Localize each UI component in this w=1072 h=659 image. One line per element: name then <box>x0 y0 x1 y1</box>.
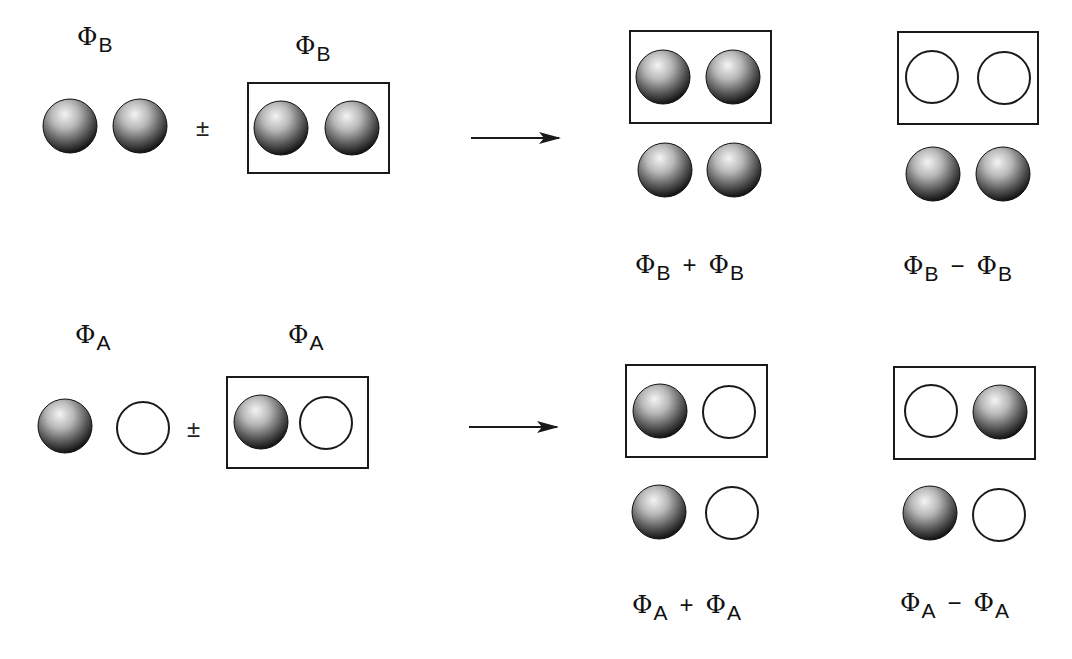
open-orbital <box>300 397 352 449</box>
orbital-combination-diagram: ΦB ΦB ± ΦB+ΦB ΦB−ΦB ΦA ΦA ± ΦA+ΦA ΦA−ΦA <box>0 0 1072 659</box>
subscript: B <box>998 262 1012 285</box>
subscript: A <box>727 601 741 624</box>
subscript: B <box>657 261 671 284</box>
row-a <box>38 365 1035 541</box>
filled-orbital <box>325 101 379 155</box>
phi-symbol: Φ <box>295 31 316 60</box>
open-orbital <box>117 402 169 454</box>
label-phi-b-left: ΦB <box>77 24 113 49</box>
phi-a-left-orbitals <box>38 399 169 454</box>
phi-a-boxed-orbitals <box>227 377 368 468</box>
label-phi-a-right: ΦA <box>288 322 324 347</box>
filled-orbital <box>254 101 308 155</box>
filled-orbital <box>638 143 692 197</box>
result-phi-a-minus <box>894 367 1035 541</box>
result-phi-b-minus <box>898 32 1038 201</box>
phi-symbol: Φ <box>288 320 309 349</box>
open-orbital <box>906 51 958 103</box>
operator: + <box>680 591 694 618</box>
filled-orbital <box>976 147 1030 201</box>
phi-b-left-orbitals <box>43 99 167 153</box>
open-orbital <box>973 489 1025 541</box>
subscript: A <box>310 331 324 354</box>
subscript: B <box>99 33 113 56</box>
filled-orbital <box>973 385 1027 439</box>
phi-symbol: Φ <box>706 590 727 619</box>
plus-minus-operator: ± <box>187 417 200 441</box>
filled-orbital <box>113 99 167 153</box>
phi-symbol: Φ <box>635 250 656 279</box>
result-phi-b-plus <box>630 31 771 197</box>
filled-orbital <box>43 99 97 153</box>
subscript: B <box>730 261 744 284</box>
filled-orbital <box>706 50 760 104</box>
filled-orbital <box>633 384 687 438</box>
phi-symbol: Φ <box>903 251 924 280</box>
subscript: A <box>97 331 111 354</box>
open-orbital <box>978 52 1030 104</box>
open-orbital <box>706 487 758 539</box>
subscript: A <box>922 599 936 622</box>
phi-symbol: Φ <box>974 588 995 617</box>
phi-symbol: Φ <box>709 250 730 279</box>
phi-symbol: Φ <box>900 588 921 617</box>
filled-orbital <box>707 143 761 197</box>
phi-symbol: Φ <box>75 320 96 349</box>
operator: − <box>948 589 962 616</box>
caption-phi-a-minus: ΦA−ΦA <box>900 590 1009 615</box>
operator: + <box>683 251 697 278</box>
label-phi-b-right: ΦB <box>295 33 331 58</box>
subscript: A <box>995 599 1009 622</box>
row-b <box>43 31 1038 201</box>
phi-symbol: Φ <box>977 251 998 280</box>
phi-symbol: Φ <box>77 22 98 51</box>
filled-orbital <box>632 485 686 539</box>
label-phi-a-left: ΦA <box>75 322 111 347</box>
subscript: B <box>317 42 331 65</box>
filled-orbital <box>903 486 957 540</box>
filled-orbital <box>906 147 960 201</box>
diagram-graphics <box>0 0 1072 659</box>
filled-orbital <box>636 50 690 104</box>
subscript: A <box>654 601 668 624</box>
caption-phi-a-plus: ΦA+ΦA <box>632 592 741 617</box>
open-orbital <box>703 386 755 438</box>
filled-orbital <box>234 395 288 449</box>
caption-phi-b-plus: ΦB+ΦB <box>635 252 744 277</box>
caption-phi-b-minus: ΦB−ΦB <box>903 253 1012 278</box>
phi-b-boxed-orbitals <box>248 83 389 173</box>
plus-minus-operator: ± <box>196 116 209 140</box>
operator: − <box>951 252 965 279</box>
phi-symbol: Φ <box>632 590 653 619</box>
result-phi-a-plus <box>626 365 767 539</box>
open-orbital <box>905 385 957 437</box>
subscript: B <box>925 262 939 285</box>
filled-orbital <box>38 399 92 453</box>
